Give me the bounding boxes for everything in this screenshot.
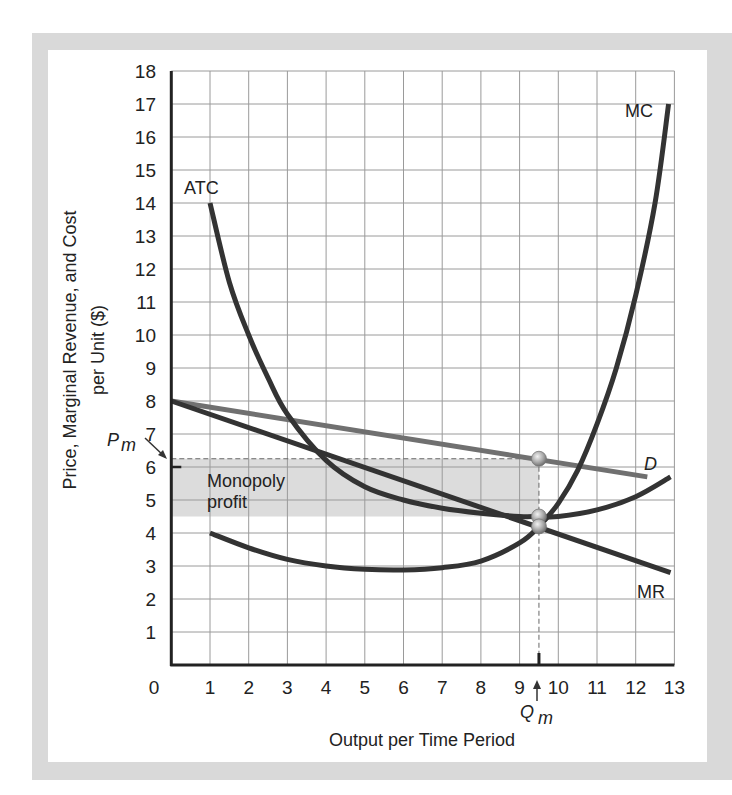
y-tick-label: 4: [145, 523, 156, 544]
x-tick-label: 12: [625, 677, 646, 698]
x-axis-title: Output per Time Period: [329, 730, 515, 750]
y-tick-label: 8: [145, 391, 156, 412]
y-tick-label: 12: [135, 259, 156, 280]
y-axis-title-line2: per Unit ($): [88, 305, 108, 395]
y-tick-label: 15: [135, 160, 156, 181]
y-tick-label: 3: [145, 556, 156, 577]
x-tick-label: 0: [149, 677, 160, 698]
y-tick-label: 17: [135, 94, 156, 115]
grid: [171, 71, 674, 665]
x-tick-label: 6: [398, 677, 409, 698]
y-tick-label: 1: [145, 622, 156, 643]
atc-label: ATC: [184, 178, 219, 198]
mr-label: MR: [637, 582, 665, 602]
x-tick-label: 2: [243, 677, 254, 698]
x-tick-label: 9: [514, 677, 525, 698]
x-tick-label: 8: [476, 677, 487, 698]
svg-text:m: m: [121, 435, 136, 455]
pm-label: P m: [107, 430, 167, 459]
y-tick-label: 18: [135, 61, 156, 82]
svg-text:m: m: [538, 708, 553, 728]
profit-label-line2: profit: [207, 492, 247, 512]
qm-arrowhead-icon: [533, 680, 541, 689]
y-tick-label: 13: [135, 226, 156, 247]
y-tick-label: 11: [136, 292, 156, 313]
x-tick-label: 11: [587, 677, 607, 698]
svg-text:P: P: [107, 430, 119, 450]
x-tick-label: 10: [548, 677, 569, 698]
y-tick-label: 7: [145, 424, 156, 445]
x-tick-labels: 012345678910111213: [149, 677, 685, 698]
x-tick-label: 13: [664, 677, 685, 698]
x-tick-label: 4: [321, 677, 332, 698]
demand-label: D: [644, 454, 657, 474]
svg-text:Q: Q: [520, 702, 534, 722]
profit-label-line1: Monopoly: [207, 471, 285, 491]
mr-mc-point: [531, 519, 546, 534]
mc-label: MC: [625, 101, 653, 121]
x-tick-label: 7: [437, 677, 448, 698]
x-tick-label: 1: [205, 677, 216, 698]
y-axis-title-line1: Price, Marginal Revenue, and Cost: [60, 210, 80, 489]
y-tick-label: 14: [135, 193, 157, 214]
y-tick-label: 6: [145, 457, 156, 478]
x-tick-label: 5: [360, 677, 371, 698]
y-tick-label: 2: [145, 589, 156, 610]
y-tick-labels: 123456789101112131415161718: [135, 61, 157, 643]
y-tick-label: 5: [145, 490, 156, 511]
y-tick-label: 9: [145, 358, 156, 379]
y-tick-label: 10: [135, 325, 156, 346]
price-point: [531, 451, 546, 466]
x-tick-label: 3: [282, 677, 293, 698]
y-tick-label: 16: [135, 127, 156, 148]
